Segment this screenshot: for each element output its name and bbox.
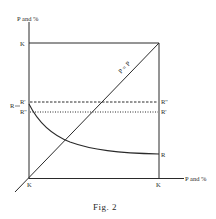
right-r-prime-label: R' bbox=[161, 108, 167, 115]
diagonal-p-equals-p bbox=[15, 43, 159, 192]
k-top-left-label: K bbox=[20, 40, 25, 47]
left-r-double-prime-label: R'' bbox=[20, 108, 27, 115]
left-r-prime-label: R' bbox=[20, 98, 26, 105]
left-r-label: R bbox=[10, 102, 15, 109]
figure-caption: Fig. 2 bbox=[93, 202, 117, 212]
figure-2-diagram: P and % P and % K K K P = P R' R R'' R''… bbox=[0, 0, 216, 219]
y-axis-label: P and % bbox=[17, 15, 39, 22]
x-axis-label: P and % bbox=[185, 175, 207, 182]
right-r-label: R bbox=[161, 151, 166, 158]
k-bottom-left-label: K bbox=[27, 181, 32, 188]
right-r-double-prime-label: R'' bbox=[161, 98, 168, 105]
diagonal-label: P = P bbox=[117, 60, 132, 75]
k-bottom-right-label: K bbox=[156, 181, 161, 188]
